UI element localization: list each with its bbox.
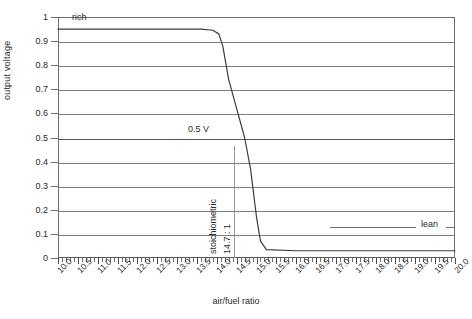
- y-tick-0.1: [51, 234, 58, 235]
- x-tick-10.4: [74, 258, 75, 262]
- y-tick-label-0.6: 0.6: [35, 108, 48, 118]
- y-axis-title: output voltage: [2, 41, 12, 100]
- x-axis-title: air/fuel ratio: [0, 296, 472, 306]
- x-tick-14.9: [253, 258, 254, 262]
- oxygen-sensor-voltage-chart: output voltage 00.10.20.30.40.50.60.70.8…: [0, 0, 472, 319]
- y-tick-0.8: [51, 65, 58, 66]
- y-tick-0.3: [51, 186, 58, 187]
- y-tick-0.4: [51, 162, 58, 163]
- y-tick-label-0: 0: [43, 253, 48, 263]
- stoichiometric-annotation-label: stoichiometric: [208, 199, 218, 254]
- y-tick-label-0.2: 0.2: [35, 205, 48, 215]
- y-tick-label-0.3: 0.3: [35, 181, 48, 191]
- x-tick-13.4: [193, 258, 194, 262]
- x-tick-12.4: [153, 258, 154, 262]
- y-tick-1: [51, 17, 58, 18]
- y-axis: 00.10.20.30.40.50.60.70.80.91: [50, 17, 58, 258]
- y-tick-0.2: [51, 210, 58, 211]
- y-tick-label-0.8: 0.8: [35, 60, 48, 70]
- y-tick-0.9: [51, 41, 58, 42]
- x-tick-12.9: [173, 258, 174, 262]
- y-tick-label-0.5: 0.5: [35, 133, 48, 143]
- x-tick-19.4: [431, 258, 432, 262]
- y-tick-0.7: [51, 89, 58, 90]
- y-tick-0.5: [51, 138, 58, 139]
- x-tick-11.9: [133, 258, 134, 262]
- x-tick-16.9: [332, 258, 333, 262]
- x-tick-17.9: [372, 258, 373, 262]
- half-volt-annotation-label: 0.5 V: [188, 124, 209, 134]
- y-tick-0: [51, 258, 58, 259]
- y-tick-label-0.1: 0.1: [35, 229, 48, 239]
- lean-leader-right: [446, 227, 455, 228]
- x-tick-19.9: [451, 258, 452, 262]
- y-tick-label-0.4: 0.4: [35, 157, 48, 167]
- y-tick-label-0.7: 0.7: [35, 84, 48, 94]
- x-tick-18.4: [391, 258, 392, 262]
- rich-leader-right: [96, 17, 455, 18]
- x-tick-10.9: [94, 258, 95, 262]
- y-tick-label-1: 1: [43, 12, 48, 22]
- curve-layer: [58, 17, 455, 258]
- x-tick-13.9: [213, 258, 214, 262]
- y-tick-label-0.9: 0.9: [35, 36, 48, 46]
- stoichiometric-ratio-label: 14.7 : 1: [222, 224, 232, 254]
- y-tick-0.6: [51, 113, 58, 114]
- x-tick-14.4: [233, 258, 234, 262]
- lean-leader-left: [330, 227, 416, 228]
- x-tick-18.9: [411, 258, 412, 262]
- x-tick-16.4: [312, 258, 313, 262]
- rich-leader-left: [58, 17, 68, 18]
- rich-annotation-label: rich: [72, 12, 87, 22]
- x-tick-17.4: [352, 258, 353, 262]
- lean-annotation-label: lean: [421, 219, 438, 229]
- stoichiometric-marker-line: [234, 146, 235, 258]
- x-tick-15.9: [292, 258, 293, 262]
- sensor-output-curve: [58, 29, 455, 251]
- x-tick-15.4: [272, 258, 273, 262]
- x-tick-11.4: [114, 258, 115, 262]
